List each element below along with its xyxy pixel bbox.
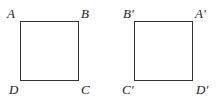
- label-D-prime: D′: [195, 82, 208, 97]
- label-A-prime: A′: [194, 6, 206, 21]
- right-square: [135, 22, 193, 81]
- label-C-prime: C′: [122, 82, 134, 97]
- label-C: C: [81, 82, 90, 97]
- left-square: [21, 22, 79, 81]
- diagram-canvas: A B D C B′ A′ C′ D′: [0, 0, 218, 101]
- label-B-prime: B′: [123, 6, 134, 21]
- label-B: B: [81, 6, 89, 21]
- label-D: D: [8, 82, 19, 97]
- label-A: A: [6, 6, 15, 21]
